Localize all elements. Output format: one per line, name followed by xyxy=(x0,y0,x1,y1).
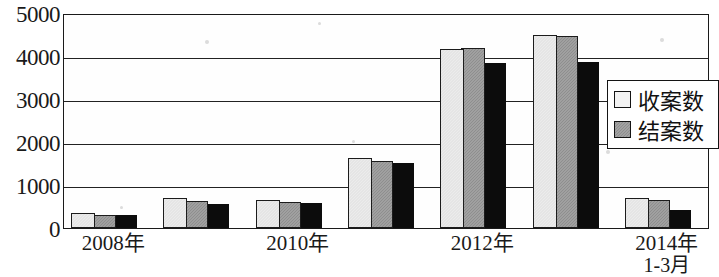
bar xyxy=(92,215,116,228)
x-axis-tick-main: 2010年 xyxy=(266,231,329,255)
y-axis-tick-label: 0 xyxy=(49,218,60,241)
bar xyxy=(533,35,557,228)
legend-item-label: 收案数 xyxy=(638,83,704,115)
legend-item: 收案数 xyxy=(614,84,718,114)
scan-speck xyxy=(318,22,321,25)
x-axis-tick-label: 2012年 xyxy=(451,232,514,255)
legend-swatch-icon xyxy=(614,91,631,108)
bar xyxy=(256,200,280,228)
bar xyxy=(440,49,464,228)
bar xyxy=(113,215,137,228)
bar xyxy=(298,203,322,228)
x-axis-tick-label: 2014年1-3月 xyxy=(635,232,698,276)
y-axis-tick-label: 3000 xyxy=(16,89,60,112)
legend-swatch-icon xyxy=(614,121,631,138)
scan-speck xyxy=(352,140,355,143)
bar xyxy=(369,161,393,228)
bar xyxy=(625,198,649,228)
y-axis: 500040003000200010000 xyxy=(0,0,60,277)
bar xyxy=(646,200,670,228)
bar-group xyxy=(256,15,322,228)
x-axis-tick-main: 2014年 xyxy=(635,231,698,255)
legend-item-label: 结案数 xyxy=(638,113,704,145)
scan-speck xyxy=(205,40,209,44)
bar-group xyxy=(440,15,506,228)
bar xyxy=(554,36,578,228)
x-axis-tick-main: 2012年 xyxy=(451,231,514,255)
scan-speck xyxy=(660,38,664,42)
y-axis-tick-label: 4000 xyxy=(16,46,60,69)
bar xyxy=(390,163,414,228)
bar xyxy=(575,62,599,228)
bar xyxy=(348,158,372,228)
bar xyxy=(163,198,187,228)
y-axis-tick-label: 2000 xyxy=(16,132,60,155)
legend-item: 结案数 xyxy=(614,114,718,144)
bar-group xyxy=(163,15,229,228)
x-axis-tick-sub: 1-3月 xyxy=(635,255,698,277)
bar-group xyxy=(533,15,599,228)
scan-speck xyxy=(120,206,123,209)
x-axis-tick-main: 2008年 xyxy=(82,231,145,255)
bar-group xyxy=(71,15,137,228)
bar xyxy=(205,204,229,229)
x-axis: 2008年2010年2012年2014年1-3月 xyxy=(63,232,709,277)
bar xyxy=(461,48,485,228)
bar-group xyxy=(348,15,414,228)
bar xyxy=(667,210,691,228)
scan-speck xyxy=(606,150,610,154)
y-axis-tick-label: 1000 xyxy=(16,175,60,198)
y-axis-tick-label: 5000 xyxy=(16,3,60,26)
legend: 收案数 结案数 xyxy=(607,80,719,149)
bar xyxy=(277,202,301,228)
bar xyxy=(71,213,95,228)
x-axis-tick-label: 2008年 xyxy=(82,232,145,255)
x-axis-tick-label: 2010年 xyxy=(266,232,329,255)
bar xyxy=(184,201,208,228)
bar xyxy=(482,63,506,228)
